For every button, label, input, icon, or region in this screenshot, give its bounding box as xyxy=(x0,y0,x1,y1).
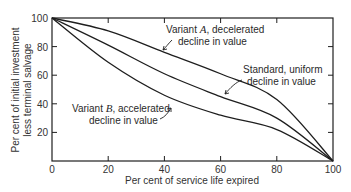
arrow-variant-a xyxy=(163,40,172,50)
annotation-variant-b-line1: Variant B, accelerated xyxy=(72,102,170,114)
depreciation-chart: 02040608010020406080100 Variant A, decel… xyxy=(0,0,351,192)
y-tick-label: 20 xyxy=(37,127,49,138)
annotation-variant-a-line2: decline in value xyxy=(178,36,247,47)
annotation-standard-line1: Standard, uniform xyxy=(243,64,323,75)
x-axis-label: Per cent of service life expired xyxy=(125,175,259,186)
annotation-variant-a-line1: Variant A, decelerated xyxy=(166,23,264,35)
annotation-variant-b-line2: decline in value xyxy=(89,115,158,126)
x-tick-label: 40 xyxy=(159,164,171,175)
y-axis-label-line1: Per cent of initial investment xyxy=(10,27,21,152)
x-tick-label: 100 xyxy=(325,164,342,175)
y-tick-label: 40 xyxy=(37,99,49,110)
y-tick-label: 80 xyxy=(37,42,49,53)
annotation-standard-line2: decline in value xyxy=(247,76,316,87)
x-tick-label: 80 xyxy=(271,164,283,175)
arrow-standard xyxy=(225,80,242,94)
x-tick-label: 0 xyxy=(49,164,55,175)
y-axis-label-line2: less terminal salvage xyxy=(22,43,33,137)
x-tick-label: 20 xyxy=(103,164,115,175)
y-tick-label: 60 xyxy=(37,70,49,81)
x-tick-label: 60 xyxy=(215,164,227,175)
y-tick-label: 100 xyxy=(31,13,48,24)
